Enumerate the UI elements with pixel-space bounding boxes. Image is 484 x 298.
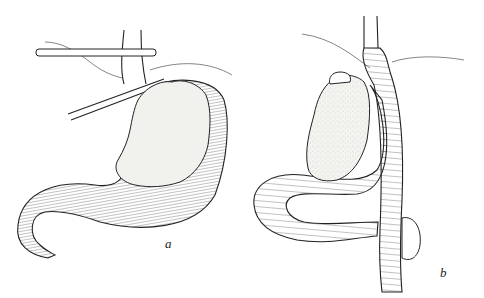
panel-label-a: a xyxy=(165,236,172,252)
stomach-illustration-b xyxy=(242,0,484,298)
panel-a: a xyxy=(0,0,242,298)
stomach-illustration-a xyxy=(0,0,242,298)
panel-label-b: b xyxy=(440,265,447,281)
panel-b: b xyxy=(242,0,484,298)
